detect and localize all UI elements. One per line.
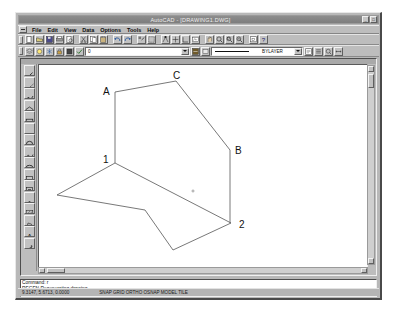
horizontal-scroll-thumb[interactable] (47, 268, 65, 273)
pan-realtime-icon[interactable] (205, 35, 214, 44)
layer-color-icon[interactable] (65, 47, 74, 56)
vertical-scroll-thumb[interactable] (368, 74, 374, 88)
multiline-text-icon[interactable]: A (24, 226, 35, 237)
drawing-vertical-scrollbar[interactable] (367, 65, 375, 265)
vertex-label-B: B (235, 145, 242, 156)
polyline-icon[interactable] (24, 88, 35, 99)
drawing-geometry: ACB12 (39, 65, 368, 269)
redo-icon[interactable] (123, 35, 132, 44)
minimize-button[interactable]: _ (362, 16, 369, 23)
polygon-icon[interactable] (24, 100, 35, 111)
print-icon[interactable] (55, 35, 64, 44)
screenshot-root: AutoCAD - [DRAWING1.DWG] _ □ File Edit V… (0, 0, 397, 312)
drawing-canvas[interactable]: ACB12 (38, 64, 368, 269)
status-modes: SNAP GRID ORTHO OSNAP MODEL TILE (97, 290, 190, 295)
vertex-labels: ACB12 (103, 70, 245, 230)
point-icon[interactable] (24, 192, 35, 203)
match-properties-icon[interactable] (137, 35, 146, 44)
ucs-icon[interactable] (181, 35, 190, 44)
drawing-horizontal-scrollbar[interactable] (38, 267, 368, 274)
print-preview-icon[interactable] (65, 35, 74, 44)
select-objects-icon[interactable] (147, 35, 156, 44)
zoom-previous-icon[interactable] (235, 35, 244, 44)
vertex-label-2: 2 (239, 219, 245, 230)
region-icon[interactable] (24, 215, 35, 226)
rectangle-icon[interactable] (24, 111, 35, 122)
copy-icon[interactable] (89, 35, 98, 44)
construction-line-icon[interactable] (24, 77, 35, 88)
named-views-icon[interactable] (191, 35, 200, 44)
fold-edge-1-to-2 (115, 163, 231, 223)
menu-item-tools[interactable]: Tools (124, 27, 144, 33)
hatch-icon[interactable] (24, 203, 35, 214)
layer-control-combo[interactable]: 0 (85, 47, 190, 56)
layer-control-value: 0 (86, 49, 181, 54)
menu-item-data[interactable]: Data (79, 27, 97, 33)
chevron-down-icon[interactable] (181, 48, 189, 55)
line-icon[interactable] (24, 65, 35, 76)
menu-bar: File Edit View Data Options Tools Help (18, 25, 379, 34)
chevron-down-icon[interactable] (294, 48, 302, 55)
arc-icon[interactable] (24, 123, 35, 134)
standard-toolbar: ? (18, 34, 379, 45)
vertex-label-C: C (173, 70, 180, 81)
dimension-icon[interactable] (24, 238, 35, 249)
status-bar: 9.3147, 5.6713, 0.0000 SNAP GRID ORTHO O… (18, 288, 379, 296)
window-control-buttons: _ □ (362, 16, 378, 23)
point-filters-icon[interactable] (171, 35, 180, 44)
upper-face-outline (115, 81, 230, 223)
maximize-button[interactable]: □ (370, 16, 377, 23)
make-block-icon[interactable] (24, 180, 35, 191)
toolbar-grip[interactable] (19, 36, 23, 44)
ellipse-icon[interactable] (24, 157, 35, 168)
vertex-label-1: 1 (103, 154, 109, 165)
draw-toolbar: A (22, 64, 37, 271)
autocad-application-window: AutoCAD - [DRAWING1.DWG] _ □ File Edit V… (15, 12, 382, 300)
list-icon[interactable] (314, 47, 323, 56)
status-coordinates: 9.3147, 5.6713, 0.0000 (20, 290, 71, 295)
save-file-icon[interactable] (45, 35, 54, 44)
menu-item-file[interactable]: File (29, 27, 44, 33)
object-snap-icon[interactable] (161, 35, 170, 44)
linetype-manager-icon[interactable] (191, 47, 200, 56)
zoom-realtime-icon[interactable] (215, 35, 224, 44)
layer-visibility-icon[interactable] (35, 47, 44, 56)
menu-item-view[interactable]: View (61, 27, 79, 33)
open-file-icon[interactable] (35, 35, 44, 44)
system-menu-icon[interactable] (19, 26, 27, 33)
layer-freeze-icon[interactable] (45, 47, 54, 56)
circle-icon[interactable] (24, 134, 35, 145)
paste-icon[interactable] (99, 35, 108, 44)
menu-item-edit[interactable]: Edit (44, 27, 60, 33)
cut-icon[interactable] (79, 35, 88, 44)
layer-lock-icon[interactable] (55, 47, 64, 56)
linetype-control-value: BYLAYER (249, 49, 294, 54)
undo-icon[interactable] (113, 35, 122, 44)
lower-face-outline (57, 163, 231, 250)
scroll-left-arrow[interactable] (39, 268, 45, 273)
scroll-down-arrow[interactable] (368, 258, 374, 264)
insert-block-icon[interactable] (24, 169, 35, 180)
layer-current-icon[interactable] (75, 47, 84, 56)
properties-icon[interactable] (304, 47, 313, 56)
help-icon[interactable]: ? (259, 35, 268, 44)
menu-item-help[interactable]: Help (144, 27, 162, 33)
inquiry-icon[interactable] (324, 47, 333, 56)
linetype-control-combo[interactable]: BYLAYER (211, 47, 303, 56)
new-file-icon[interactable] (25, 35, 34, 44)
toolbar-grip[interactable] (19, 47, 23, 55)
aerial-view-icon[interactable] (249, 35, 258, 44)
menu-item-options[interactable]: Options (97, 27, 124, 33)
crosshair-marker (191, 189, 194, 192)
object-properties-toolbar: 0 BYLAYER (18, 45, 379, 57)
spline-icon[interactable] (24, 146, 35, 157)
layers-icon[interactable] (25, 47, 34, 56)
color-control-icon[interactable] (201, 47, 210, 56)
linetype-sample-line (215, 51, 249, 52)
dimension-style-icon[interactable] (334, 47, 343, 56)
window-title: AutoCAD - [DRAWING1.DWG] (19, 17, 362, 23)
svg-text:?: ? (262, 37, 266, 43)
scroll-up-arrow[interactable] (368, 66, 374, 72)
zoom-window-icon[interactable] (225, 35, 234, 44)
scroll-right-arrow[interactable] (361, 268, 367, 273)
